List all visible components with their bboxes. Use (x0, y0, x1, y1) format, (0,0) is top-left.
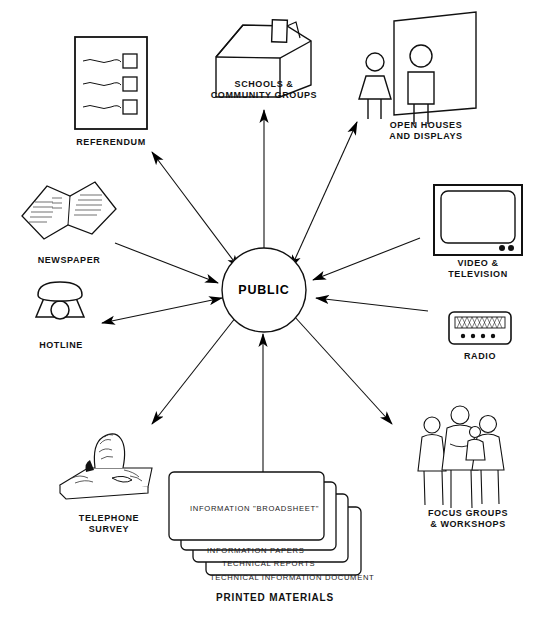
public-hub-label: PUBLIC (214, 283, 314, 297)
arrow-telephone-survey (152, 317, 236, 424)
card-label-technical-reports: TECHNICAL REPORTS (222, 559, 315, 568)
label-printed-materials: PRINTED MATERIALS (185, 592, 365, 603)
telephone-icon (36, 282, 84, 319)
card-label-broadsheet: INFORMATION "BROADSHEET" (190, 504, 319, 513)
newspaper-icon (22, 182, 116, 239)
person-at-desk-phone-icon (60, 434, 152, 499)
public-consultation-diagram (0, 0, 539, 625)
people-display-panel-icon (359, 12, 476, 124)
radio-icon (449, 312, 511, 344)
television-icon (434, 185, 522, 255)
arrow-focus-groups (294, 316, 392, 424)
arrow-radio (316, 298, 428, 311)
arrow-referendum (152, 152, 239, 268)
arrow-video-television (313, 238, 420, 280)
school-building-icon (216, 20, 311, 97)
arrow-hotline (102, 298, 222, 323)
ballot-icon (75, 37, 147, 129)
card-label-technical-information-document: TECHNICAL INFORMATION DOCUMENT (210, 573, 374, 582)
card-label-information-papers: INFORMATION PAPERS (207, 546, 305, 555)
diagram-canvas: PUBLIC REFERENDUM SCHOOLS & COMMUNITY GR… (0, 0, 539, 625)
arrow-open-houses (291, 122, 357, 268)
arrow-newspaper (115, 243, 218, 283)
group-of-people-icon (418, 406, 504, 508)
